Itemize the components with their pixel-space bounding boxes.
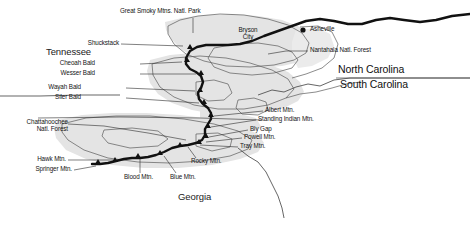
city-label-asheville: Asheville xyxy=(310,26,334,33)
area-label-chattahoochee-national-forest: ChattahoocheeNatl. Forest xyxy=(0,119,68,133)
feature-label-blue-mtn: Blue Mtn. xyxy=(170,174,196,181)
georgia-south-carolina-boundary xyxy=(238,148,284,218)
feature-label-cheoah-bald: Cheoah Bald xyxy=(35,60,95,67)
leader-shuckstack xyxy=(121,44,183,46)
asheville-city-dot xyxy=(300,27,305,32)
feature-label-powell-mtn: Powell Mtn. xyxy=(244,134,275,141)
feature-label-siler-bald: Siler Bald xyxy=(21,94,81,101)
leader-springer-mtn xyxy=(74,166,96,170)
feature-label-rocky-mtn: Rocky Mtn. xyxy=(191,158,222,165)
state-label-north-carolina: North Carolina xyxy=(338,64,404,75)
feature-label-bly-gap: Bly Gap xyxy=(250,126,272,133)
feature-label-wayah-bald: Wayah Bald xyxy=(21,84,81,91)
feature-label-springer-mtn: Springer Mtn. xyxy=(6,166,72,173)
area-label-great-smoky-mountains: Great Smoky Mtns. Natl. Park xyxy=(120,8,200,15)
map-figure: Tennessee North Carolina South Carolina … xyxy=(0,0,470,229)
area-label-nantahala-national-forest: Nantahala Natl. Forest xyxy=(310,47,371,54)
feature-label-blood-mtn: Blood Mtn. xyxy=(124,174,153,181)
feature-label-standing-indian-mtn: Standing Indian Mtn. xyxy=(258,116,314,123)
state-label-tennessee: Tennessee xyxy=(46,47,91,57)
feature-label-albert-mtn: Albert Mtn. xyxy=(265,107,294,114)
state-label-south-carolina: South Carolina xyxy=(340,79,408,90)
feature-label-hawk-mtn: Hawk Mtn. xyxy=(6,156,66,163)
feature-label-tray-mtn: Tray Mtn. xyxy=(240,143,265,150)
feature-label-wesser-bald: Wesser Bald xyxy=(35,70,95,77)
feature-label-shuckstack: Shuckstack xyxy=(59,40,119,47)
state-label-georgia: Georgia xyxy=(178,192,211,202)
city-label-bryson-city: BrysonCity xyxy=(231,27,265,41)
